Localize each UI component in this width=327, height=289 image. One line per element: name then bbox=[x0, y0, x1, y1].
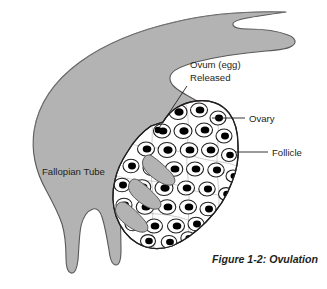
label-ovum-line2: Released bbox=[190, 72, 231, 83]
ovulation-figure: Fallopian Tube Ovum (egg) Released Ovary… bbox=[0, 0, 327, 289]
label-follicle: Follicle bbox=[272, 147, 302, 158]
label-ovary: Ovary bbox=[249, 113, 275, 124]
ovulation-diagram-canvas: Fallopian Tube Ovum (egg) Released Ovary… bbox=[0, 0, 327, 289]
figure-caption: Figure 1-2: Ovulation bbox=[212, 253, 318, 265]
label-fallopian-tube: Fallopian Tube bbox=[42, 166, 105, 177]
label-ovum-line1: Ovum (egg) bbox=[190, 59, 241, 70]
ovum-dot bbox=[155, 127, 162, 134]
